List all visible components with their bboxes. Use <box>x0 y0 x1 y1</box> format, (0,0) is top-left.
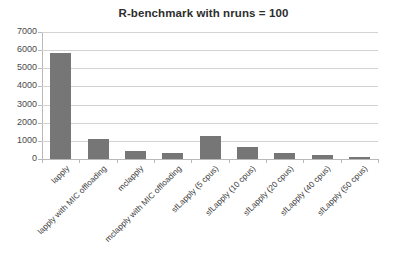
x-axis-category-labels: lapplylapply with MIC offloadingmclapply… <box>0 0 407 276</box>
bar-chart: R-benchmark with nruns = 100 70006000500… <box>0 0 407 276</box>
